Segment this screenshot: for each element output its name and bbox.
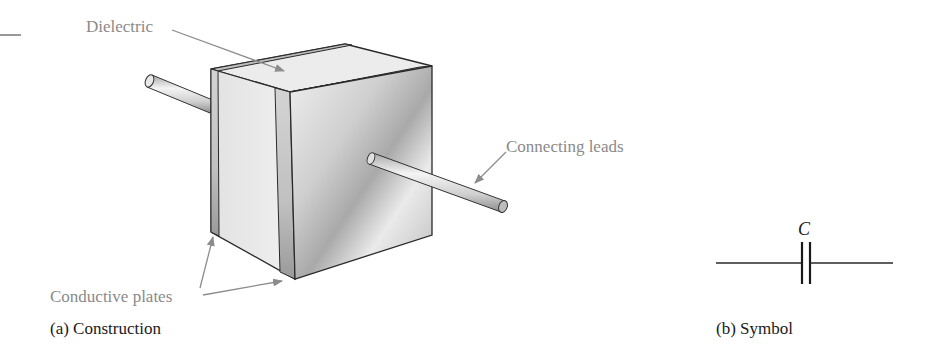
panel-a-caption: (a) Construction [50,320,161,337]
capacitor-illustration [0,0,937,364]
conductive-plates-arrow-1 [200,237,213,288]
dielectric-arrow [172,30,284,71]
conductive-plates-label: Conductive plates [50,288,172,305]
dielectric-label: Dielectric [86,18,153,35]
connecting-leads-label: Connecting leads [506,138,624,155]
capacitor-body [211,44,432,279]
conductive-plates-arrow-2 [203,281,282,295]
connecting-leads-arrow [475,152,506,183]
conductive-plate-back [211,69,219,236]
capacitor-figure: Dielectric Connecting leads Conductive p… [0,0,937,364]
symbol-label: C [798,220,810,238]
left-lead [143,74,215,113]
panel-b-caption: (b) Symbol [716,320,793,337]
capacitor-symbol [716,242,893,284]
